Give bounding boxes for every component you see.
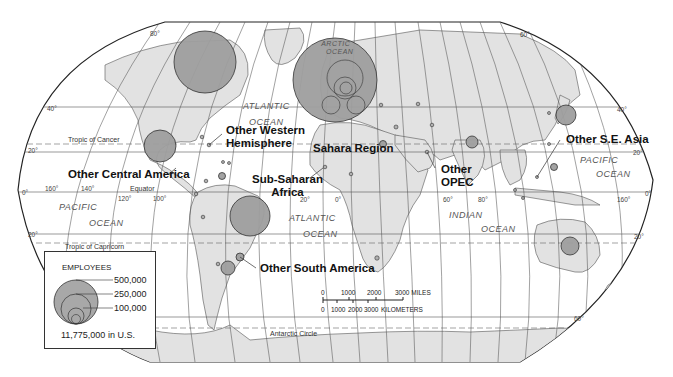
label-line: Other Western — [226, 124, 305, 137]
ocean-line: OCEAN — [318, 48, 353, 56]
tick-lon-60: 60° — [443, 196, 453, 203]
tick-rlat-m60: 60° — [574, 315, 584, 322]
scale-km-0: 0 — [321, 306, 325, 313]
scale-km-1000: 1000 — [331, 306, 345, 313]
scale-miles-0: 0 — [321, 289, 325, 296]
tick-rlat-m20: 20° — [634, 233, 644, 240]
legend-us-note: 11,775,000 in U.S. — [61, 330, 135, 340]
scale-km-unit: KILOMETERS — [381, 306, 423, 313]
scale-miles-2000: 2000 — [367, 289, 381, 296]
tick-lat-40: 40° — [47, 105, 57, 112]
legend-value-250000: 250,000 — [114, 289, 147, 299]
label-line: Other — [441, 163, 474, 176]
label-line: Sub-Saharan — [252, 173, 323, 186]
tick-rlat-40: 40° — [617, 106, 627, 113]
label-line: Hemisphere — [226, 137, 305, 150]
label-other-se-asia: Other S.E. Asia — [566, 133, 649, 146]
bubble-australia — [561, 237, 579, 255]
scale-miles-3000: 3000 MILES — [395, 289, 431, 296]
ocean-line: ATLANTIC — [243, 98, 290, 114]
label-sahara-region: Sahara Region — [313, 142, 394, 155]
tick-lon-160e: 160° — [617, 196, 630, 203]
tick-lon-140w: 140° — [81, 185, 94, 192]
tick-lat-0: 0° — [22, 189, 28, 196]
label-other-south-america: Other South America — [260, 262, 375, 275]
bubble-brazil — [230, 196, 270, 236]
bubble-india — [466, 136, 478, 148]
bubble-venezuela — [219, 173, 226, 180]
label-other-central-america: Other Central America — [68, 168, 190, 181]
tropic-of-cancer-label: Tropic of Cancer — [68, 136, 119, 143]
ocean-label-arctic: ARCTIC OCEAN — [318, 40, 353, 56]
tick-lon-160w: 160° — [45, 185, 58, 192]
ocean-line: ATLANTIC — [289, 210, 338, 226]
label-line: OPEC — [441, 176, 474, 189]
label-line: Africa — [252, 186, 323, 199]
label-sub-saharan-africa: Sub-Saharan Africa — [252, 173, 323, 199]
ocean-line: INDIAN — [449, 208, 516, 222]
tick-rlat-60: 60° — [520, 31, 530, 38]
label-other-western-hemisphere: Other Western Hemisphere — [226, 124, 305, 150]
ocean-label-indian: INDIAN OCEAN — [449, 208, 516, 236]
tick-lon-120w: 120° — [118, 195, 131, 202]
bubble-canada — [174, 31, 236, 93]
tick-lat-m20: 20° — [28, 231, 38, 238]
tick-lon-0: 0° — [335, 196, 341, 203]
scale-miles-1000: 1000 — [341, 289, 355, 296]
ocean-line: OCEAN — [580, 167, 631, 181]
equator-label: Equator — [130, 185, 155, 192]
tick-lon-100w: 100° — [153, 195, 166, 202]
ocean-line: OCEAN — [449, 222, 516, 236]
legend-value-500000: 500,000 — [114, 275, 147, 285]
tick-lat-20: 20° — [28, 147, 38, 154]
bubble-philippines — [551, 164, 558, 171]
legend-box: EMPLOYEES 500,000 250,000 100,000 11,775… — [44, 251, 156, 349]
ocean-label-pacific-west: PACIFIC OCEAN — [580, 153, 631, 181]
scale-km-3000: 3000 — [364, 306, 378, 313]
bubble-japan — [556, 105, 576, 125]
tick-lon-80: 80° — [478, 196, 488, 203]
ocean-label-pacific-east: PACIFIC OCEAN — [59, 199, 124, 231]
tick-rlat-20: 20° — [633, 149, 643, 156]
tick-lat-80: 80° — [150, 30, 160, 37]
ocean-line: ARCTIC — [318, 40, 353, 48]
ocean-line: OCEAN — [289, 226, 338, 242]
legend-value-100000: 100,000 — [114, 303, 147, 313]
scale-km-2000: 2000 — [348, 306, 362, 313]
ocean-line: PACIFIC — [580, 153, 631, 167]
ocean-line: PACIFIC — [59, 199, 124, 215]
antarctic-circle-label: Antarctic Circle — [270, 330, 317, 337]
tropic-of-capricorn-label: Tropic of Capricorn — [65, 243, 124, 250]
bubble-argentina — [221, 261, 235, 275]
tick-rlat-0: 0° — [645, 190, 651, 197]
label-other-opec: Other OPEC — [441, 163, 474, 189]
ocean-label-atlantic-south: ATLANTIC OCEAN — [289, 210, 338, 242]
bubble-mexico — [144, 130, 176, 162]
ocean-line: OCEAN — [59, 215, 124, 231]
